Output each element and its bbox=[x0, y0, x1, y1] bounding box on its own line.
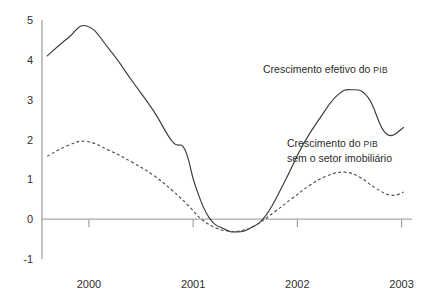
annotation-text: Crescimento efetivo do bbox=[263, 63, 373, 75]
annotation-text: Crescimento do bbox=[287, 137, 363, 149]
series-line-efetivo bbox=[47, 25, 403, 232]
x-axis-tick-label: 2003 bbox=[389, 278, 413, 290]
annotation-line: Crescimento efetivo do PIB bbox=[263, 63, 388, 75]
y-axis-tick-label: 2 bbox=[27, 134, 33, 146]
y-axis-tick-label: 1 bbox=[27, 173, 33, 185]
x-axis-tick-label: 2001 bbox=[181, 278, 205, 290]
annotation-text: sem o setor imobiliário bbox=[287, 152, 392, 164]
annotation-line: Crescimento do PIB bbox=[287, 137, 378, 149]
y-axis-tick-label: 5 bbox=[27, 14, 33, 26]
y-axis-tick-label: 0 bbox=[27, 213, 33, 225]
annotation-efetivo: Crescimento efetivo do PIB bbox=[263, 63, 388, 75]
x-axis-tick-label: 2000 bbox=[77, 278, 101, 290]
annotation-line: sem o setor imobiliário bbox=[287, 152, 392, 164]
annotation-acronym: PIB bbox=[373, 65, 388, 75]
x-axis-tick-label: 2002 bbox=[285, 278, 309, 290]
annotations-layer: Crescimento efetivo do PIBCrescimento do… bbox=[263, 63, 392, 164]
annotation-sem-imobiliario: Crescimento do PIBsem o setor imobiliári… bbox=[287, 137, 392, 164]
y-axis-tick-label: 4 bbox=[27, 54, 33, 66]
y-axis-tick-label: 3 bbox=[27, 94, 33, 106]
y-axis-tick-label: -1 bbox=[23, 253, 33, 265]
annotation-acronym: PIB bbox=[363, 139, 378, 149]
series-layer bbox=[47, 25, 403, 232]
chart-container: 543210-12000200120022003 Crescimento efe… bbox=[0, 0, 422, 300]
gdp-growth-line-chart: 543210-12000200120022003 Crescimento efe… bbox=[0, 0, 422, 300]
